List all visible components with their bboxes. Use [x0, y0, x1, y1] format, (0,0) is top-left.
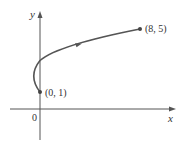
origin-label: 0 [32, 112, 37, 123]
x-axis-arrow-icon [169, 107, 176, 112]
end-point [138, 27, 142, 31]
y-axis-arrow-icon [38, 11, 43, 18]
curve [34, 29, 140, 92]
start-point-label: (0, 1) [45, 87, 67, 99]
direction-arrow-icon [75, 43, 82, 47]
start-point [38, 90, 42, 94]
x-axis-label: x [167, 112, 173, 124]
end-point-label: (8, 5) [145, 23, 167, 35]
y-axis-label: y [29, 8, 35, 20]
parametric-curve-plot: y x 0 (0, 1) (8, 5) [0, 0, 182, 147]
